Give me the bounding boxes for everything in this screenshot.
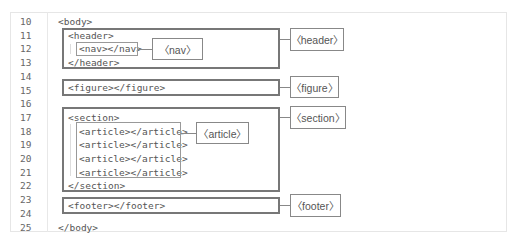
line-number: 14	[20, 70, 44, 84]
nav-label: 〈nav〉	[152, 38, 203, 60]
line-number: 17	[20, 111, 44, 125]
line-number: 10	[20, 15, 44, 29]
header-label: 〈header〉	[290, 28, 344, 51]
line-number: 22	[20, 179, 44, 193]
line-number: 12	[20, 42, 44, 56]
article-code-box	[76, 122, 181, 178]
line-number: 18	[20, 125, 44, 139]
line-number: 19	[20, 138, 44, 152]
figure-connector	[280, 87, 290, 88]
section-label: 〈section〉	[290, 106, 346, 129]
line-number: 16	[20, 97, 44, 111]
nav-connector	[138, 49, 152, 50]
line-number: 25	[20, 221, 44, 235]
section-connector	[280, 117, 290, 118]
figure-box	[62, 79, 280, 96]
footer-box	[62, 197, 280, 214]
header-connector	[280, 39, 290, 40]
gutter-divider	[47, 12, 48, 232]
line-number: 23	[20, 193, 44, 207]
code-body-open: <body>	[58, 15, 92, 29]
footer-label: 〈footer〉	[290, 194, 341, 217]
line-number: 15	[20, 84, 44, 98]
line-number: 11	[20, 29, 44, 43]
line-number: 21	[20, 166, 44, 180]
article-connector	[181, 133, 196, 134]
line-number: 20	[20, 152, 44, 166]
line-number: 13	[20, 56, 44, 70]
figure-label: 〈figure〉	[290, 76, 339, 98]
footer-connector	[280, 205, 290, 206]
nav-code-box	[76, 42, 138, 56]
line-number: 24	[20, 207, 44, 221]
code-body-close: </body>	[58, 221, 98, 235]
article-label: 〈article〉	[196, 122, 249, 144]
